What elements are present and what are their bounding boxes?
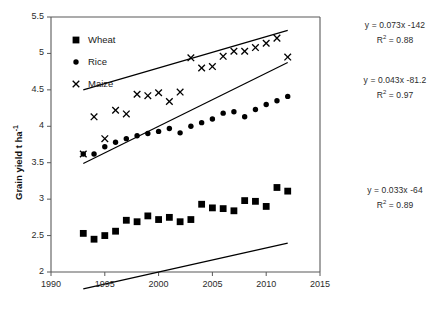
- data-point-square: [177, 218, 184, 225]
- data-point-circle: [113, 140, 118, 145]
- data-point-square: [91, 236, 98, 243]
- data-point-circle: [274, 98, 279, 103]
- legend-item-maize: Maize: [88, 78, 113, 89]
- data-point-square: [134, 218, 141, 225]
- data-point-square: [155, 216, 162, 223]
- rice-trendline-annotation: y = 0.043x -81.2 R2 = 0.97: [352, 75, 438, 101]
- data-point-square: [166, 214, 173, 221]
- grain-yield-scatter-chart: [0, 0, 444, 309]
- data-point-square: [220, 205, 227, 212]
- chart-background: [0, 0, 444, 309]
- data-point-circle: [242, 114, 247, 119]
- data-point-circle: [264, 102, 269, 107]
- data-point-circle: [102, 144, 107, 149]
- y-tick-label: 5: [0, 47, 44, 57]
- maize-trendline-annotation: y = 0.073x -142 R2 = 0.88: [352, 20, 438, 46]
- data-point-circle: [167, 126, 172, 131]
- data-point-square: [274, 184, 281, 191]
- y-tick-label: 4.5: [0, 84, 44, 94]
- y-tick-label: 5.5: [0, 11, 44, 21]
- data-point-circle: [124, 136, 129, 141]
- data-point-circle: [156, 129, 161, 134]
- rice-r2-text: R2 = 0.97: [352, 87, 438, 101]
- data-point-circle: [199, 120, 204, 125]
- data-point-square: [112, 228, 119, 235]
- data-point-circle: [73, 59, 78, 64]
- rice-equation-text: y = 0.043x -81.2: [352, 75, 438, 87]
- x-tick-label: 1990: [35, 279, 67, 289]
- y-tick-label: 3.5: [0, 157, 44, 167]
- wheat-equation-text: y = 0.033x -64: [352, 185, 438, 197]
- data-point-square: [80, 230, 87, 237]
- data-point-circle: [231, 109, 236, 114]
- data-point-square: [263, 203, 270, 210]
- data-point-square: [241, 197, 248, 204]
- data-point-square: [101, 232, 108, 239]
- data-point-circle: [210, 116, 215, 121]
- data-point-circle: [177, 130, 182, 135]
- data-point-square: [252, 198, 259, 205]
- data-point-square: [209, 204, 216, 211]
- wheat-trendline-annotation: y = 0.033x -64 R2 = 0.89: [352, 185, 438, 211]
- y-tick-label: 2.5: [0, 230, 44, 240]
- data-point-circle: [220, 110, 225, 115]
- legend-item-rice: Rice: [88, 56, 107, 67]
- data-point-square: [284, 188, 291, 195]
- data-point-square: [198, 201, 205, 208]
- data-point-square: [144, 213, 151, 220]
- x-tick-label: 1995: [89, 279, 121, 289]
- data-point-square: [231, 207, 238, 214]
- data-point-circle: [285, 94, 290, 99]
- y-tick-label: 3: [0, 193, 44, 203]
- wheat-r2-text: R2 = 0.89: [352, 197, 438, 211]
- data-point-square: [73, 37, 80, 44]
- legend-item-wheat: Wheat: [88, 34, 115, 45]
- x-tick-label: 2010: [250, 279, 282, 289]
- y-tick-label: 2: [0, 266, 44, 276]
- data-point-square: [123, 217, 130, 224]
- data-point-circle: [188, 124, 193, 129]
- data-point-square: [187, 216, 194, 223]
- data-point-circle: [91, 151, 96, 156]
- x-tick-label: 2015: [304, 279, 336, 289]
- y-tick-label: 4: [0, 120, 44, 130]
- maize-r2-text: R2 = 0.88: [352, 32, 438, 46]
- data-point-circle: [253, 107, 258, 112]
- x-tick-label: 2000: [143, 279, 175, 289]
- x-tick-label: 2005: [196, 279, 228, 289]
- maize-equation-text: y = 0.073x -142: [352, 20, 438, 32]
